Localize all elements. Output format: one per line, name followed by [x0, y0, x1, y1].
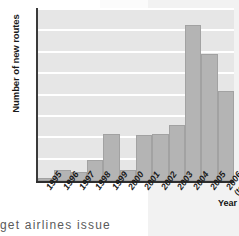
bar-chart: Number of new routes 01020304050607080 1…: [0, 0, 239, 212]
bar: [185, 25, 201, 181]
gridline: [38, 51, 234, 53]
plot-area: [38, 10, 234, 181]
figure-page: Number of new routes 01020304050607080 1…: [0, 0, 239, 236]
bar: [218, 91, 234, 181]
plot-area-wrapper: [38, 10, 234, 181]
x-axis-title: Year: [218, 198, 237, 208]
y-axis-line: [36, 8, 38, 183]
gridline: [38, 8, 234, 10]
page-body-text-fragment: get airlines issue: [0, 218, 160, 232]
gridline: [38, 29, 234, 31]
bar: [201, 54, 217, 181]
y-axis-title: Number of new routes: [10, 0, 21, 129]
